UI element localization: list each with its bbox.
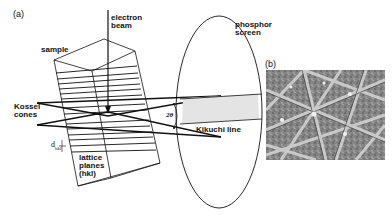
kossel-cones-label: Kossel cones bbox=[14, 103, 40, 119]
phosphor-screen-label: phosphor screen bbox=[235, 21, 272, 37]
panel-a-label: (a) bbox=[13, 10, 24, 18]
sample-label: sample bbox=[41, 46, 69, 54]
kikuchi-line-label: Kikuchi line bbox=[196, 126, 241, 134]
lattice-planes-label: lattice planes (hkl) bbox=[79, 154, 104, 178]
panel-b-label: (b) bbox=[265, 60, 276, 68]
two-theta-label: 2θ bbox=[166, 111, 173, 119]
kikuchi-pattern-image bbox=[266, 70, 385, 160]
d-hkl-label: dhkl bbox=[51, 140, 61, 151]
electron-beam-label: electron beam bbox=[111, 14, 142, 30]
